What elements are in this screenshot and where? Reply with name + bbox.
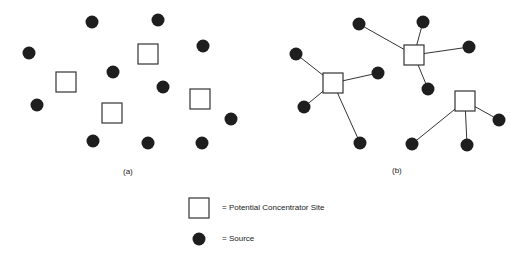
source-dot-icon xyxy=(290,48,303,61)
source-dot-icon xyxy=(225,113,238,126)
concentrator-site-icon xyxy=(190,89,210,109)
source-dot-icon xyxy=(406,138,419,151)
concentrator-site-icon xyxy=(138,44,158,64)
source-dot-icon xyxy=(197,40,210,53)
source-dot-icon xyxy=(493,114,506,127)
source-dot-icon xyxy=(417,16,430,29)
source-dot-icon xyxy=(461,139,474,152)
source-dot-icon xyxy=(23,47,36,60)
concentrator-site-icon xyxy=(404,45,424,65)
panel-a-label: (a) xyxy=(123,167,133,176)
source-dot-icon xyxy=(152,14,165,27)
nodes-layer xyxy=(23,14,506,152)
source-dot-icon xyxy=(196,137,209,150)
source-dot-icon xyxy=(354,137,367,150)
legend-source-dot-icon xyxy=(193,233,206,246)
source-dot-icon xyxy=(142,137,155,150)
source-dot-icon xyxy=(31,99,44,112)
source-dot-icon xyxy=(422,83,435,96)
legend-concentrator-label: = Potential Concentrator Site xyxy=(222,203,325,212)
legend-concentrator-square-icon xyxy=(189,198,209,218)
panel-b-label: (b) xyxy=(392,166,402,175)
source-dot-icon xyxy=(298,101,311,114)
source-dot-icon xyxy=(463,41,476,54)
concentrator-diagram xyxy=(0,0,521,256)
source-dot-icon xyxy=(87,135,100,148)
source-dot-icon xyxy=(157,81,170,94)
source-dot-icon xyxy=(353,18,366,31)
concentrator-site-icon xyxy=(56,72,76,92)
concentrator-site-icon xyxy=(323,73,343,93)
source-dot-icon xyxy=(86,16,99,29)
legend-symbols xyxy=(189,198,209,246)
source-dot-icon xyxy=(107,66,120,79)
legend-source-label: = Source xyxy=(222,234,254,243)
concentrator-site-icon xyxy=(455,91,475,111)
source-dot-icon xyxy=(372,67,385,80)
concentrator-site-icon xyxy=(102,103,122,123)
